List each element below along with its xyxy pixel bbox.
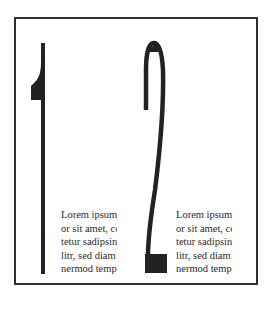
text-line: nermod tempo (176, 262, 232, 276)
text-line: Lorem ipsum (61, 208, 117, 222)
text-line: or sit amet, co (176, 222, 232, 236)
text-line: tetur sadipsing (176, 235, 232, 249)
text-column-right: Lorem ipsum or sit amet, co tetur sadips… (176, 208, 232, 276)
numeral-two-glyph (145, 43, 167, 273)
text-line: litr, sed diam (176, 249, 232, 263)
numeral-one-glyph (31, 43, 45, 274)
text-line: Lorem ipsum (176, 208, 232, 222)
text-line: or sit amet, co (61, 222, 117, 236)
text-line: tetur sadipsing (61, 235, 117, 249)
text-line: nermod tempo (61, 262, 117, 276)
text-line: litr, sed diam (61, 249, 117, 263)
text-column-left: Lorem ipsum or sit amet, co tetur sadips… (61, 208, 117, 276)
